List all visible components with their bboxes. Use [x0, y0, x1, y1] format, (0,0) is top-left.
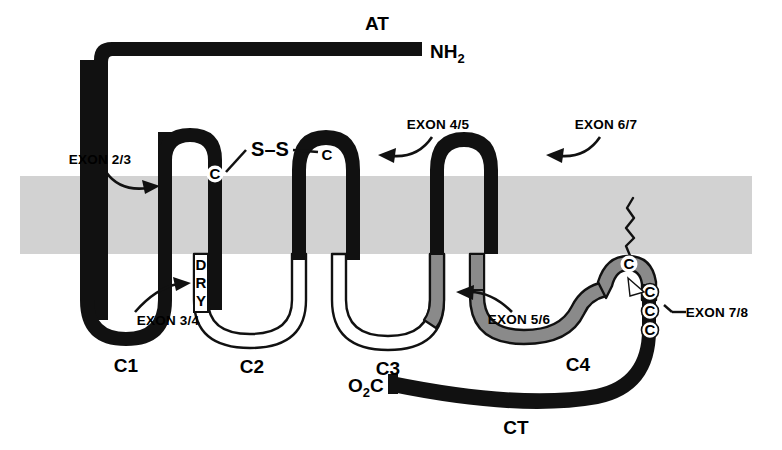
svg-text:C: C	[645, 283, 656, 300]
c3-exon56-segment	[424, 254, 444, 328]
disulfide-label: S–S	[251, 138, 289, 160]
c3-loop	[332, 254, 444, 350]
receptor-label-at: AT	[365, 13, 389, 34]
c4-loop	[470, 254, 606, 344]
exon-arrowhead-4-5	[378, 148, 396, 163]
loop-label-ct: CT	[503, 417, 529, 438]
cys-marker-ec2: C	[319, 146, 336, 164]
topology-diagram: D R Y S–S	[0, 0, 782, 450]
loop-label-c3: C3	[376, 358, 400, 379]
cys-marker-tail-3: C	[642, 321, 659, 339]
exon-label-3-4: EXON 3/4	[137, 313, 200, 328]
dry-motif: D R Y	[194, 254, 208, 312]
dry-d: D	[196, 256, 207, 273]
svg-text:C: C	[322, 146, 333, 163]
svg-text:C: C	[645, 302, 656, 319]
n-terminus-label: NH2	[430, 41, 465, 66]
exon-label-2-3: EXON 2/3	[69, 152, 132, 167]
loop-label-c1: C1	[114, 355, 139, 376]
loop-label-c4: C4	[566, 354, 591, 375]
exon-arrowhead-6-7	[546, 148, 564, 163]
svg-text:C: C	[210, 165, 221, 182]
svg-text:C: C	[645, 321, 656, 338]
exon-label-5-6: EXON 5/6	[488, 312, 551, 327]
exon-label-4-5: EXON 4/5	[407, 117, 470, 132]
exon-arrow-4-5	[392, 137, 432, 156]
tm7-exon67-gray-segment	[470, 254, 484, 290]
exon-label-7-8: EXON 7/8	[686, 305, 749, 320]
exon-leader-7-8	[664, 305, 672, 312]
exon-arrowhead-3-4	[173, 277, 191, 291]
cys-marker-tail-2: C	[642, 302, 659, 320]
tm7-helix	[484, 176, 498, 254]
exon-arrowhead-5-6	[456, 285, 474, 300]
loop-label-c2: C2	[240, 356, 264, 377]
figure-canvas: D R Y S–S	[0, 0, 782, 450]
tm2-helix	[158, 136, 172, 300]
disulfide-line-left	[226, 150, 246, 172]
svg-text:C: C	[624, 255, 635, 272]
dry-y: Y	[196, 292, 206, 309]
exon-label-6-7: EXON 6/7	[575, 117, 637, 132]
exon-arrow-6-7	[560, 137, 600, 156]
dry-r: R	[196, 274, 207, 291]
